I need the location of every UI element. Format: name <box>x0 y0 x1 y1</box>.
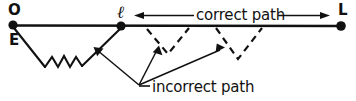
path-diagram-figure: O E ℓ L correct path incorrect path <box>0 0 356 101</box>
node-label-O: O <box>8 3 21 18</box>
incorrect-path-dashed-v2 <box>216 28 262 59</box>
incorrect-path-leader-1-shaft <box>97 50 139 85</box>
incorrect-path-dashed-v1 <box>147 28 189 54</box>
node-label-l: ℓ <box>117 4 124 21</box>
annotation-label-correct-path: correct path <box>196 8 285 23</box>
incorrect-path-left-ascending-leg <box>82 29 120 66</box>
node-dot-L <box>336 21 346 31</box>
incorrect-path-zigzag <box>45 56 82 67</box>
correct-path-arrow-right-head <box>320 12 330 19</box>
node-label-L: L <box>338 3 348 18</box>
incorrect-path-leader-3-head <box>216 44 225 53</box>
annotation-label-incorrect-path: incorrect path <box>152 80 254 95</box>
node-label-E: E <box>9 33 19 48</box>
baseline-correct-path <box>13 26 341 27</box>
correct-path-arrow-left-head <box>134 12 144 19</box>
